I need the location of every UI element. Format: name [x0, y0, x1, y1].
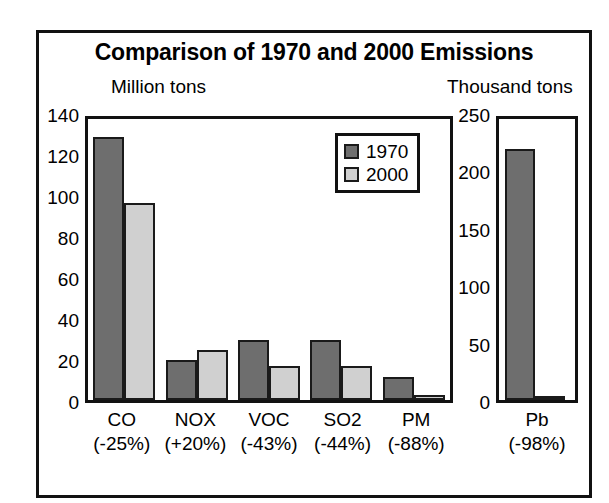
x-category-label: Pb: [496, 409, 578, 431]
y-tick-label: 250: [458, 105, 490, 127]
x-category-label: PM: [379, 409, 453, 431]
y-tick-label: 40: [58, 310, 79, 332]
y-tick-label: 150: [458, 220, 490, 242]
x-percent-change-label: (-44%): [306, 433, 380, 455]
y-tick-label: 80: [58, 228, 79, 250]
chart-figure: Comparison of 1970 and 2000 Emissions Mi…: [36, 30, 592, 498]
legend-item-1970: 1970: [344, 140, 408, 163]
bar-VOC-1970: [238, 340, 269, 400]
bar-SO2-1970: [310, 340, 341, 400]
bar-SO2-2000: [341, 366, 372, 400]
bar-PM-1970: [383, 377, 414, 400]
y-tick-label: 50: [469, 335, 490, 357]
x-label-group-CO: CO(-25%): [85, 409, 159, 455]
bar-CO-2000: [124, 203, 155, 400]
y-tick-label: 100: [458, 277, 490, 299]
legend-swatch-1970: [344, 144, 359, 159]
chart-legend: 1970 2000: [335, 133, 420, 193]
x-category-label: SO2: [306, 409, 380, 431]
y-tick-label: 0: [68, 392, 79, 414]
x-percent-change-label: (-25%): [85, 433, 159, 455]
bar-NOX-2000: [197, 350, 228, 400]
bar-VOC-2000: [269, 366, 300, 400]
legend-item-2000: 2000: [344, 163, 408, 186]
legend-label-2000: 2000: [366, 165, 408, 184]
legend-swatch-2000: [344, 167, 359, 182]
x-label-group-NOX: NOX(+20%): [159, 409, 233, 455]
chart-title: Comparison of 1970 and 2000 Emissions: [39, 39, 589, 66]
right-plot-panel: [496, 116, 578, 403]
x-percent-change-label: (-43%): [232, 433, 306, 455]
bar-PM-2000: [414, 395, 445, 400]
y-tick-label: 100: [47, 187, 79, 209]
left-axis-unit-label: Million tons: [111, 76, 206, 98]
right-axis-unit-label: Thousand tons: [447, 76, 573, 98]
bar-NOX-1970: [166, 360, 197, 400]
bar-CO-1970: [93, 137, 124, 400]
legend-label-1970: 1970: [366, 142, 408, 161]
x-label-group-SO2: SO2(-44%): [306, 409, 380, 455]
y-tick-label: 20: [58, 351, 79, 373]
y-tick-label: 60: [58, 269, 79, 291]
bar-Pb-2000: [535, 396, 565, 400]
x-percent-change-label: (-98%): [496, 433, 578, 455]
x-percent-change-label: (+20%): [159, 433, 233, 455]
y-tick-label: 140: [47, 105, 79, 127]
y-tick-label: 0: [479, 392, 490, 414]
x-category-label: CO: [85, 409, 159, 431]
x-label-group-PM: PM(-88%): [379, 409, 453, 455]
right-y-axis: 050100150200250: [448, 116, 494, 403]
x-label-group-Pb: Pb(-98%): [496, 409, 578, 455]
x-category-label: NOX: [159, 409, 233, 431]
x-label-group-VOC: VOC(-43%): [232, 409, 306, 455]
y-tick-label: 200: [458, 162, 490, 184]
right-plot-area: [499, 119, 575, 400]
left-plot-panel: 1970 2000: [85, 116, 453, 403]
y-tick-label: 120: [47, 146, 79, 168]
bar-Pb-1970: [505, 149, 535, 400]
left-y-axis: 020406080100120140: [37, 116, 83, 403]
x-category-label: VOC: [232, 409, 306, 431]
x-percent-change-label: (-88%): [379, 433, 453, 455]
